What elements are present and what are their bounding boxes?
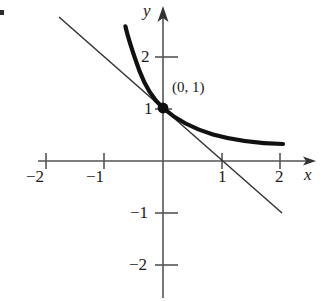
y-tick-label-neg1: −1 <box>130 204 148 221</box>
x-axis-name: x <box>304 166 312 183</box>
x-axis <box>38 157 316 166</box>
y-axis <box>158 6 169 298</box>
point-annotation-label: (0, 1) <box>172 80 205 95</box>
y-tick-label-neg2: −2 <box>129 256 147 273</box>
exponential-tangent-figure: −2 −1 1 2 2 1 −1 −2 x y (0, 1) <box>0 0 322 301</box>
y-tick-label-2: 2 <box>141 48 150 65</box>
x-tick-label-neg2: −2 <box>26 168 44 185</box>
tangency-point-marker <box>158 103 169 114</box>
x-tick-label-1: 1 <box>218 168 227 185</box>
x-tick-label-neg1: −1 <box>86 168 104 185</box>
y-tick-label-1: 1 <box>144 100 153 117</box>
x-tick-label-2: 2 <box>275 168 284 185</box>
y-axis-name: y <box>143 2 151 19</box>
plot-canvas <box>0 0 322 301</box>
